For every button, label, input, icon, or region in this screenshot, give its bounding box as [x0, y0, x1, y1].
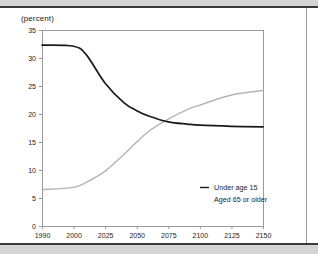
- y-axis-ticks: [39, 31, 42, 227]
- line-chart-svg: 05101520253035 1990200020252050207521002…: [0, 0, 318, 254]
- legend-label: Under age 15: [214, 183, 258, 192]
- series-line: [42, 90, 263, 189]
- y-tick-label: 0: [32, 223, 36, 230]
- legend-label: Aged 65 or older: [214, 195, 268, 204]
- x-tick-label: 2000: [66, 232, 82, 239]
- plot-area: 05101520253035 1990200020252050207521002…: [0, 0, 318, 254]
- x-tick-label: 2075: [161, 232, 177, 239]
- x-tick-label: 2125: [224, 232, 240, 239]
- series-line: [42, 45, 263, 127]
- y-tick-label: 30: [28, 55, 36, 62]
- x-tick-label: 2025: [98, 232, 114, 239]
- x-tick-label: 2100: [193, 232, 209, 239]
- y-axis-tick-labels: 05101520253035: [28, 27, 36, 230]
- chart-page: (percent) 05101520253035 199020002025205…: [0, 0, 318, 254]
- y-tick-label: 35: [28, 27, 36, 34]
- y-tick-label: 5: [32, 195, 36, 202]
- x-axis-tick-labels: 19902000202520502075210021252150: [35, 232, 272, 239]
- y-tick-label: 20: [28, 111, 36, 118]
- x-tick-label: 2050: [129, 232, 145, 239]
- x-tick-label: 1990: [35, 232, 51, 239]
- x-tick-label: 2150: [256, 232, 272, 239]
- data-series-group: [42, 45, 263, 189]
- y-tick-label: 25: [28, 83, 36, 90]
- chart-legend: Under age 15Aged 65 or older: [200, 183, 268, 204]
- y-tick-label: 15: [28, 139, 36, 146]
- y-tick-label: 10: [28, 167, 36, 174]
